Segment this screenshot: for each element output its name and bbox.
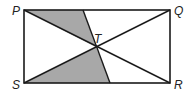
shaded-region-bottom	[24, 47, 110, 83]
label-r: R	[174, 78, 183, 92]
label-q: Q	[174, 4, 183, 18]
label-p: P	[12, 4, 20, 18]
label-s: S	[12, 78, 20, 92]
geometry-diagram: P Q R S T	[0, 0, 193, 98]
